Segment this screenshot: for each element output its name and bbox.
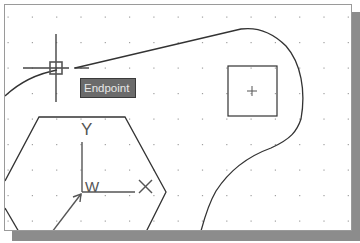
drawing-viewport[interactable]: Y W Endpoint xyxy=(4,4,352,231)
hexagon-lower-left-edge xyxy=(5,208,19,231)
world-ucs-icon xyxy=(52,142,152,231)
spline-boundary[interactable] xyxy=(5,29,303,231)
osnap-tooltip: Endpoint xyxy=(80,78,136,98)
drawing-canvas[interactable] xyxy=(5,5,352,231)
osnap-tooltip-label: Endpoint xyxy=(84,82,129,94)
ucs-w-label: W xyxy=(85,178,99,195)
grid-dots xyxy=(8,17,349,222)
ucs-y-label: Y xyxy=(81,121,92,138)
